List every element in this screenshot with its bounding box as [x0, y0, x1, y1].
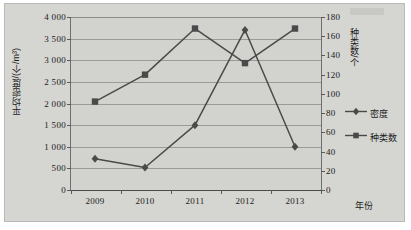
y-axis-right-tick [321, 94, 325, 95]
series-layer [70, 17, 320, 190]
y-axis-left-ticklabel: 1 500 [44, 121, 66, 130]
x-axis-tick [221, 190, 222, 194]
legend: 密度 种类数 [345, 106, 409, 154]
x-axis-ticklabel: 2013 [275, 196, 315, 206]
x-axis-ticklabels: 20092010201120122013 [0, 196, 411, 210]
legend-label-species: 种类数 [370, 131, 397, 144]
x-axis-tick [171, 190, 172, 194]
y-axis-right-ticklabel: 160 [326, 32, 340, 41]
y-axis-left-ticklabel: 3 500 [44, 35, 66, 44]
y-axis-right-ticklabel: 20 [326, 167, 336, 176]
gridline [71, 190, 321, 191]
data-point-square [142, 71, 148, 77]
data-point-diamond [92, 155, 99, 163]
chart-figure: 05001 0001 5002 0002 5003 0003 5004 000 … [0, 0, 411, 230]
x-axis-tick [271, 190, 272, 194]
y-axis-right-ticklabel: 60 [326, 128, 336, 137]
data-point-square [192, 25, 198, 31]
y-axis-right-tick [321, 132, 325, 133]
x-axis-ticklabel: 2012 [225, 196, 265, 206]
diamond-marker-icon [345, 106, 367, 117]
y-axis-right-title: 种类数/个 [349, 28, 361, 67]
y-axis-left-title: 平均密度/(个/m³) [9, 48, 21, 115]
y-axis-right-tick [321, 152, 325, 153]
legend-item-density[interactable]: 密度 [345, 106, 409, 117]
y-axis-left-ticklabel: 0 [61, 186, 66, 195]
y-axis-right-ticklabel: 100 [326, 90, 340, 99]
data-point-diamond [292, 143, 299, 151]
series-line-density [95, 30, 295, 168]
y-axis-left-ticklabel: 1 000 [44, 143, 66, 152]
x-axis-title: 年份 [355, 199, 373, 212]
y-axis-right-tick [321, 113, 325, 114]
y-axis-right-tick [321, 55, 325, 56]
x-axis-ticklabel: 2010 [125, 196, 165, 206]
y-axis-left-ticklabel: 4 000 [44, 13, 66, 22]
square-marker-icon [345, 130, 367, 141]
y-axis-right-tick [321, 17, 325, 18]
y-axis-right-ticklabel: 80 [326, 109, 336, 118]
legend-item-species[interactable]: 种类数 [345, 130, 409, 141]
y-axis-left-ticklabel: 2 000 [44, 100, 66, 109]
data-point-square [292, 25, 298, 31]
y-axis-right-ticklabel: 120 [326, 71, 340, 80]
y-axis-right-ticklabel: 180 [326, 13, 340, 22]
x-axis-tick [121, 190, 122, 194]
y-axis-right-tick [321, 171, 325, 172]
data-point-square [242, 60, 248, 66]
y-axis-right-ticklabel: 0 [326, 186, 331, 195]
y-axis-right-tick [321, 36, 325, 37]
series-line-species [95, 29, 295, 102]
x-axis-tick [71, 190, 72, 194]
y-axis-right-ticklabel: 140 [326, 51, 340, 60]
x-axis-ticklabel: 2009 [75, 196, 115, 206]
watermark [350, 8, 384, 15]
y-axis-left-ticklabel: 500 [52, 164, 66, 173]
y-axis-left-ticklabel: 3 000 [44, 56, 66, 65]
y-axis-right-tick [321, 75, 325, 76]
legend-label-density: 密度 [370, 107, 388, 120]
x-axis-ticklabel: 2011 [175, 196, 215, 206]
y-axis-right-ticklabel: 40 [326, 148, 336, 157]
x-axis-tick [321, 190, 322, 194]
y-axis-left-ticklabel: 2 500 [44, 78, 66, 87]
data-point-diamond [242, 26, 249, 34]
data-point-square [92, 98, 98, 104]
